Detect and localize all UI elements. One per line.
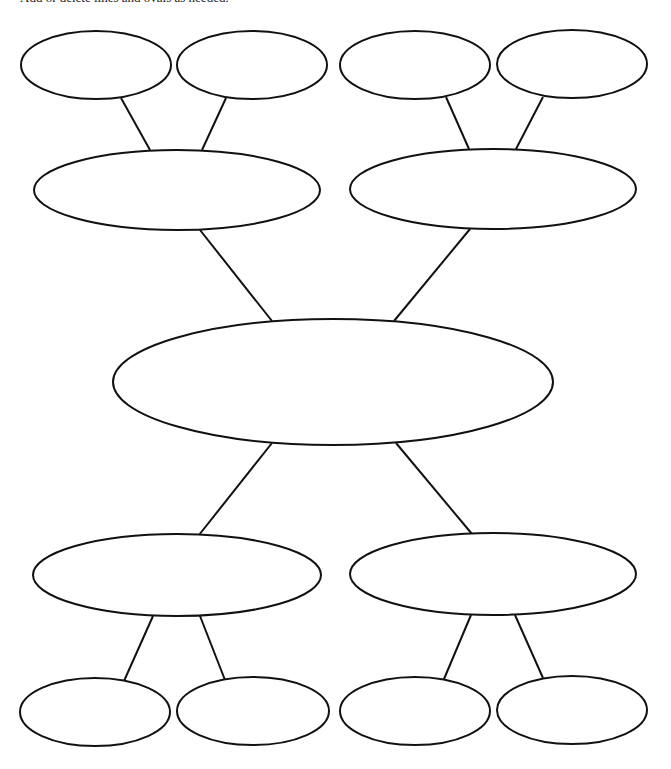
connector-line-top-left-node-to-central xyxy=(200,230,272,321)
web-organizer-diagram xyxy=(0,0,671,769)
bottom-right-branch-oval[interactable] xyxy=(350,533,636,615)
bottom-left-leaf-oval-2[interactable] xyxy=(177,677,329,745)
connector-line-top-right-leaf-1-to-top-right-node xyxy=(446,97,469,149)
bottom-right-leaf-oval-2-shape[interactable] xyxy=(497,676,647,744)
connector-line-central-to-bottom-right-node xyxy=(396,443,472,534)
top-right-branch-oval-shape[interactable] xyxy=(350,149,636,229)
top-left-leaf-oval-1[interactable] xyxy=(21,31,171,99)
top-right-leaf-oval-2-shape[interactable] xyxy=(497,30,647,98)
bottom-right-leaf-oval-2[interactable] xyxy=(497,676,647,744)
top-right-leaf-oval-1[interactable] xyxy=(340,31,490,99)
top-left-leaf-oval-2-shape[interactable] xyxy=(177,31,327,99)
connector-line-top-right-leaf-2-to-top-right-node xyxy=(516,97,543,149)
top-right-branch-oval[interactable] xyxy=(350,149,636,229)
connector-line-bottom-right-node-to-bottom-right-leaf-2 xyxy=(515,615,543,678)
connector-line-top-left-leaf-1-to-top-left-node xyxy=(121,98,150,150)
top-left-leaf-oval-1-shape[interactable] xyxy=(21,31,171,99)
connector-line-top-left-leaf-2-to-top-left-node xyxy=(202,98,226,150)
central-oval-shape[interactable] xyxy=(113,319,553,445)
bottom-left-branch-oval[interactable] xyxy=(33,534,321,616)
top-right-leaf-oval-2[interactable] xyxy=(497,30,647,98)
connector-line-top-right-node-to-central xyxy=(394,229,470,321)
bottom-right-leaf-oval-1-shape[interactable] xyxy=(340,677,490,745)
bottom-left-branch-oval-shape[interactable] xyxy=(33,534,321,616)
oval-nodes xyxy=(20,30,647,746)
connector-line-central-to-bottom-left-node xyxy=(199,443,272,535)
top-left-branch-oval-shape[interactable] xyxy=(34,150,320,230)
top-left-branch-oval[interactable] xyxy=(34,150,320,230)
connector-line-bottom-left-node-to-bottom-left-leaf-1 xyxy=(124,616,153,681)
bottom-left-leaf-oval-1[interactable] xyxy=(20,678,170,746)
bottom-left-leaf-oval-1-shape[interactable] xyxy=(20,678,170,746)
connector-line-bottom-right-node-to-bottom-right-leaf-1 xyxy=(444,615,471,679)
bottom-right-branch-oval-shape[interactable] xyxy=(350,533,636,615)
connector-line-bottom-left-node-to-bottom-left-leaf-2 xyxy=(200,616,225,680)
central-oval[interactable] xyxy=(113,319,553,445)
top-right-leaf-oval-1-shape[interactable] xyxy=(340,31,490,99)
bottom-left-leaf-oval-2-shape[interactable] xyxy=(177,677,329,745)
bottom-right-leaf-oval-1[interactable] xyxy=(340,677,490,745)
top-left-leaf-oval-2[interactable] xyxy=(177,31,327,99)
